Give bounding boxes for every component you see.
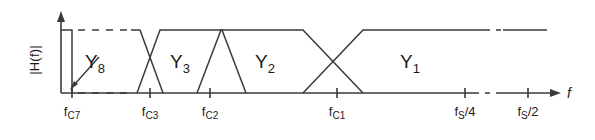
y-axis-label: |H(f)|	[27, 45, 42, 75]
x-tick-labels: fC7 fC3 fC2 fC1 fS/4 fS/2	[64, 104, 539, 121]
tick-label-fc3: fC3	[142, 104, 159, 121]
filter-response-figure: |H(f)| f	[0, 0, 595, 140]
y3-left-falling-edge	[131, 30, 163, 93]
band-label-y8: Y8	[85, 51, 105, 76]
y-axis-arrowhead	[57, 11, 65, 22]
band-shape-y8	[61, 30, 72, 93]
x-axis-label: f	[567, 85, 573, 101]
tick-label-fc2: fC2	[202, 104, 219, 121]
band-label-y3: Y3	[170, 51, 190, 76]
tick-label-fs2: fS/2	[517, 104, 538, 121]
y-axis	[57, 11, 65, 93]
band-labels: Y8 Y3 Y2 Y1	[85, 51, 420, 76]
y1-passband-outline	[303, 30, 485, 93]
band-label-y1: Y1	[400, 51, 420, 76]
band-label-y2: Y2	[255, 51, 275, 76]
y8-rectangle-outline	[61, 30, 72, 93]
tick-label-fc1: fC1	[329, 104, 346, 121]
tick-label-fs4: fS/4	[454, 104, 475, 121]
tick-label-fc7: fC7	[64, 104, 81, 121]
x-axis	[61, 89, 561, 97]
band-shape-y2	[197, 30, 363, 93]
y2-passband-outline	[197, 30, 363, 93]
band-shape-y1	[303, 30, 547, 93]
x-axis-arrowhead	[550, 89, 561, 97]
y3-passband-outline	[137, 30, 246, 93]
magnitude-response-plot: |H(f)| f	[0, 0, 595, 140]
